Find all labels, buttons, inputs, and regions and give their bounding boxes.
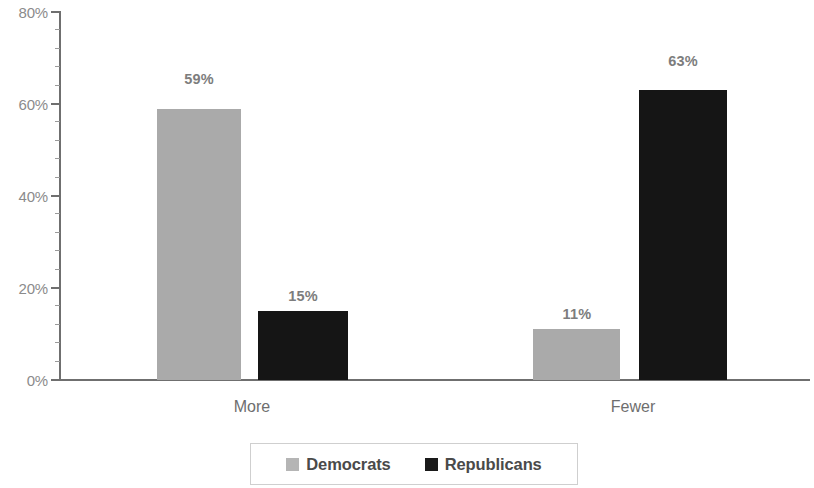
legend-entry-democrats: Democrats <box>286 456 390 473</box>
chart-legend: Democrats Republicans <box>250 443 578 485</box>
data-label-republicans-fewer: 63% <box>643 54 723 69</box>
x-category-label-fewer: Fewer <box>583 399 683 415</box>
bar-republicans-fewer <box>639 90 727 380</box>
legend-label-democrats: Democrats <box>306 456 390 473</box>
data-label-democrats-fewer: 11% <box>537 307 617 322</box>
data-label-democrats-more: 59% <box>159 72 239 87</box>
legend-swatch-republicans-icon <box>425 458 438 471</box>
legend-entry-republicans: Republicans <box>425 456 542 473</box>
bar-republicans-more <box>258 311 348 380</box>
legend-label-republicans: Republicans <box>445 456 542 473</box>
x-category-label-more: More <box>202 399 302 415</box>
legend-swatch-democrats-icon <box>286 458 299 471</box>
data-label-republicans-more: 15% <box>263 289 343 304</box>
bar-democrats-more <box>157 109 241 380</box>
bar-democrats-fewer <box>533 329 620 380</box>
bar-chart: 80% 60% 40% 20% 0% 59% 15% 11% 63% <box>0 0 814 488</box>
